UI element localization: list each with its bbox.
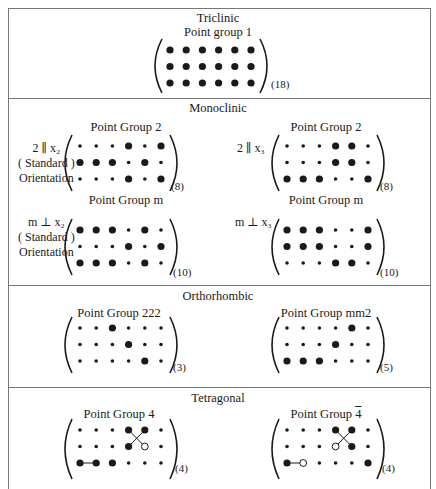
small-dot xyxy=(159,445,163,449)
small-dot xyxy=(78,144,82,148)
large-dot xyxy=(247,63,254,70)
small-dot xyxy=(334,359,338,363)
large-dot xyxy=(166,63,173,70)
small-dot xyxy=(94,359,98,363)
section-title-monoclinic: Monoclinic xyxy=(189,101,247,115)
small-dot xyxy=(318,343,322,347)
small-dot xyxy=(111,343,115,347)
large-dot xyxy=(215,79,222,86)
small-dot xyxy=(78,326,82,330)
matrix-mono-m-x3 xyxy=(267,218,402,276)
large-dot xyxy=(109,324,116,331)
small-dot xyxy=(334,326,338,330)
large-dot xyxy=(125,243,132,250)
section-title-tetragonal: Tetragonal xyxy=(191,391,244,405)
small-dot xyxy=(94,428,98,432)
large-dot xyxy=(332,259,339,266)
large-dot xyxy=(332,341,339,348)
large-dot xyxy=(364,226,371,233)
matrix-ortho-mm2 xyxy=(267,316,402,374)
right-paren xyxy=(260,39,267,93)
large-dot xyxy=(348,159,355,166)
section-title-triclinic: Triclinic xyxy=(197,11,240,25)
right-paren xyxy=(377,419,384,479)
small-dot xyxy=(318,461,322,465)
small-dot xyxy=(301,343,305,347)
small-dot xyxy=(78,359,82,363)
large-dot xyxy=(157,243,164,250)
large-dot xyxy=(348,259,355,266)
small-dot xyxy=(334,228,338,232)
small-dot xyxy=(301,261,305,265)
small-dot xyxy=(301,161,305,165)
large-dot xyxy=(76,226,83,233)
left-paren xyxy=(272,317,279,373)
matrix-tetra-4bar xyxy=(267,418,402,480)
small-dot xyxy=(94,445,98,449)
left-paren xyxy=(65,219,72,275)
large-dot xyxy=(141,259,148,266)
large-dot xyxy=(109,459,116,466)
right-paren xyxy=(170,219,177,275)
large-dot xyxy=(283,459,290,466)
left-paren xyxy=(155,39,162,93)
large-dot xyxy=(348,142,355,149)
matrix-mono-m-x2 xyxy=(60,218,195,276)
large-dot xyxy=(364,175,371,182)
small-dot xyxy=(127,359,131,363)
matrix-ortho-222 xyxy=(60,316,195,374)
large-dot xyxy=(199,46,206,53)
large-dot xyxy=(199,79,206,86)
small-dot xyxy=(159,359,163,363)
large-dot xyxy=(199,63,206,70)
open-circle xyxy=(300,460,307,467)
large-dot xyxy=(183,46,190,53)
large-dot xyxy=(166,46,173,53)
large-dot xyxy=(141,226,148,233)
small-dot xyxy=(318,428,322,432)
small-dot xyxy=(94,245,98,249)
small-dot xyxy=(143,245,147,249)
left-paren xyxy=(272,419,279,479)
large-dot xyxy=(125,175,132,182)
small-dot xyxy=(159,343,163,347)
large-dot xyxy=(93,226,100,233)
large-dot xyxy=(215,46,222,53)
small-dot xyxy=(78,245,82,249)
small-dot xyxy=(111,428,115,432)
large-dot xyxy=(215,63,222,70)
large-dot xyxy=(283,357,290,364)
large-dot xyxy=(109,159,116,166)
small-dot xyxy=(334,177,338,181)
small-dot xyxy=(318,326,322,330)
large-dot xyxy=(348,324,355,331)
left-paren xyxy=(272,219,279,275)
small-dot xyxy=(285,161,289,165)
large-dot xyxy=(348,426,355,433)
large-dot xyxy=(300,175,307,182)
section-title-orthorhombic: Orthorhombic xyxy=(183,289,254,303)
small-dot xyxy=(350,461,354,465)
small-dot xyxy=(350,359,354,363)
small-dot xyxy=(366,161,370,165)
small-dot xyxy=(159,428,163,432)
large-dot xyxy=(125,341,132,348)
left-paren xyxy=(65,419,72,479)
right-paren xyxy=(170,135,177,191)
large-dot xyxy=(231,63,238,70)
large-dot xyxy=(76,459,83,466)
small-dot xyxy=(78,428,82,432)
small-dot xyxy=(159,161,163,165)
small-dot xyxy=(143,461,147,465)
small-dot xyxy=(78,343,82,347)
large-dot xyxy=(231,79,238,86)
large-dot xyxy=(283,226,290,233)
right-paren xyxy=(377,135,384,191)
large-dot xyxy=(348,443,355,450)
large-dot xyxy=(364,243,371,250)
large-dot xyxy=(316,175,323,182)
small-dot xyxy=(285,326,289,330)
label-mono-2-x3: Point Group 2 xyxy=(291,120,362,134)
small-dot xyxy=(94,343,98,347)
large-dot xyxy=(125,443,132,450)
